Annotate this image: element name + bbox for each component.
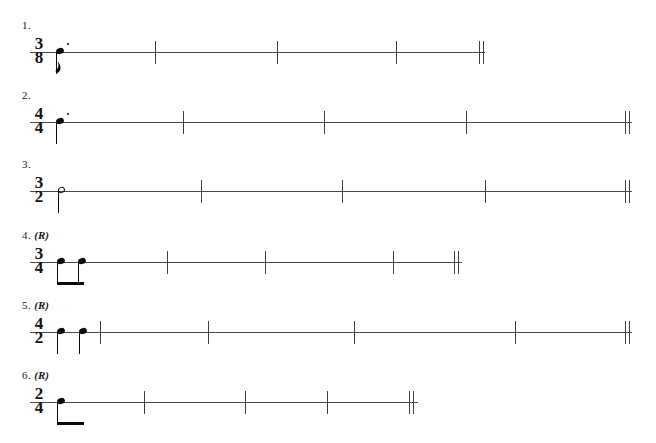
time-signature-2: 44	[31, 107, 47, 135]
barline-6-3	[327, 391, 328, 414]
time-signature-denominator-2: 4	[31, 121, 47, 135]
barline-5-2	[208, 321, 209, 344]
double-barline-2	[625, 111, 630, 134]
exercise-label-6: 6. (R)	[22, 369, 49, 381]
time-signature-denominator-6: 4	[31, 401, 47, 415]
stem-5-1	[57, 332, 58, 354]
time-signature-4: 34	[31, 247, 47, 275]
rhythm-tag-5: (R)	[34, 299, 49, 311]
beam-4	[57, 282, 84, 285]
double-barline-stroke-right-2	[629, 111, 630, 134]
barline-3-1	[201, 180, 202, 203]
exercise-number-3: 3.	[22, 158, 31, 170]
barline-3-3	[485, 180, 486, 203]
augmentation-dot-1-1	[67, 43, 69, 45]
exercise-label-3: 3.	[22, 158, 31, 170]
time-signature-3: 32	[31, 176, 47, 204]
barline-4-3	[393, 251, 394, 274]
double-barline-stroke-right-5	[629, 321, 630, 344]
double-barline-stroke-right-1	[483, 41, 484, 64]
rhythm-line-4	[30, 262, 462, 263]
double-barline-stroke-left-4	[454, 251, 455, 274]
double-barline-5	[625, 321, 630, 344]
double-barline-6	[409, 391, 414, 414]
time-signature-denominator-5: 2	[31, 331, 47, 345]
time-signature-denominator-3: 2	[31, 190, 47, 204]
exercise-label-5: 5. (R)	[22, 299, 49, 311]
exercise-label-1: 1.	[22, 19, 31, 31]
double-barline-stroke-right-4	[458, 251, 459, 274]
barline-2-2	[324, 111, 325, 134]
time-signature-6: 24	[31, 387, 47, 415]
time-signature-5: 42	[31, 317, 47, 345]
barline-4-2	[265, 251, 266, 274]
rhythm-tag-6: (R)	[34, 369, 49, 381]
barline-4-1	[167, 251, 168, 274]
rhythm-line-6	[30, 402, 418, 403]
barline-5-4	[515, 321, 516, 344]
double-barline-stroke-left-5	[625, 321, 626, 344]
eighth-flag-1-1	[55, 61, 62, 72]
exercise-number-5: 5.	[22, 299, 31, 311]
beam-6	[57, 422, 84, 425]
double-barline-3	[625, 180, 630, 203]
exercise-number-4: 4.	[22, 229, 31, 241]
double-barline-stroke-left-1	[479, 41, 480, 64]
rhythm-line-1	[30, 52, 485, 53]
stem-2-1	[56, 122, 57, 144]
exercise-number-1: 1.	[22, 19, 31, 31]
double-barline-stroke-right-6	[413, 391, 414, 414]
time-signature-denominator-4: 4	[31, 261, 47, 275]
barline-1-1	[155, 41, 156, 64]
stem-6-1	[57, 402, 58, 424]
stem-3-1	[58, 191, 59, 213]
double-barline-stroke-left-6	[409, 391, 410, 414]
stem-4-1	[57, 262, 58, 284]
barline-5-1	[100, 321, 101, 344]
time-signature-1: 38	[31, 37, 47, 65]
barline-5-3	[354, 321, 355, 344]
rhythm-tag-4: (R)	[34, 229, 49, 241]
barline-3-2	[342, 180, 343, 203]
exercise-number-6: 6.	[22, 369, 31, 381]
barline-2-1	[183, 111, 184, 134]
exercise-label-2: 2.	[22, 89, 31, 101]
barline-2-3	[466, 111, 467, 134]
double-barline-stroke-right-3	[629, 180, 630, 203]
worksheet-page: 1.382.443.324. (R)345. (R)426. (R)24	[0, 0, 656, 443]
rhythm-line-3	[30, 191, 632, 192]
barline-1-3	[396, 41, 397, 64]
time-signature-denominator-1: 8	[31, 51, 47, 65]
barline-1-2	[277, 41, 278, 64]
double-barline-1	[479, 41, 484, 64]
double-barline-stroke-left-3	[625, 180, 626, 203]
barline-6-2	[245, 391, 246, 414]
stem-4-2	[78, 262, 79, 284]
rhythm-line-2	[30, 122, 632, 123]
exercise-number-2: 2.	[22, 89, 31, 101]
double-barline-stroke-left-2	[625, 111, 626, 134]
rhythm-line-5	[30, 332, 632, 333]
barline-6-1	[144, 391, 145, 414]
exercise-label-4: 4. (R)	[22, 229, 49, 241]
augmentation-dot-2-1	[67, 113, 69, 115]
stem-5-2	[79, 332, 80, 354]
double-barline-4	[454, 251, 459, 274]
